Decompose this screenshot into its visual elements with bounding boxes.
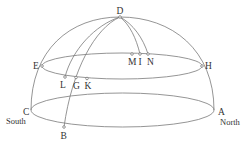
label-e: E: [33, 61, 39, 71]
label-d: D: [117, 6, 124, 16]
label-m: M: [128, 57, 137, 67]
label-b: B: [61, 131, 67, 141]
label-south: South: [6, 116, 27, 126]
label-a: A: [218, 107, 225, 117]
almucantar-ellipse: [42, 53, 202, 79]
label-n: N: [147, 57, 154, 67]
arc-d-l: [65, 17, 120, 77]
label-l: L: [60, 80, 66, 90]
label-g: G: [73, 81, 80, 91]
point-d: [119, 16, 122, 19]
point-e: [41, 65, 44, 68]
point-k: [86, 77, 89, 80]
label-h: H: [205, 61, 212, 71]
label-north: North: [220, 117, 241, 127]
point-h: [201, 65, 204, 68]
horizon-ellipse: [31, 93, 214, 127]
dome-arc: [31, 17, 214, 110]
arc-d-i: [120, 17, 140, 54]
label-k: K: [85, 81, 92, 91]
point-b: [63, 126, 66, 129]
label-i: I: [139, 57, 142, 67]
point-m: [131, 53, 134, 56]
point-i: [139, 53, 142, 56]
hemisphere-diagram: D E H C A B L G K M I N South North: [0, 0, 248, 144]
point-l: [64, 76, 67, 79]
point-g: [75, 76, 78, 79]
point-n: [147, 53, 150, 56]
